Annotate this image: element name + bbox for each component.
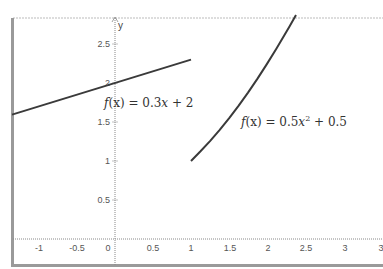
quadratic-function-curve xyxy=(191,15,296,161)
x-tick-label: 1.5 xyxy=(224,243,237,253)
y-axis-label: y xyxy=(118,20,123,31)
y-tick-label: 0.5 xyxy=(97,195,110,205)
left-border xyxy=(11,18,14,266)
x-tick-label: 3 xyxy=(342,243,347,253)
bottom-border xyxy=(11,264,383,267)
x-tick-label: 2 xyxy=(265,243,270,253)
x-tick-label: -1 xyxy=(35,243,43,253)
y-tick-label: 1.5 xyxy=(97,117,110,127)
function-plot: y 0.5 1 1.5 2 2.5 -1 -0.5 0 0.5 1 1.5 2 … xyxy=(0,0,383,269)
x-tick-label: 2.5 xyxy=(300,243,313,253)
linear-function-label: f(x) = 0.3x + 2 xyxy=(103,96,193,110)
x-tick-label: 0 xyxy=(105,243,110,253)
y-tick-label: 1 xyxy=(105,156,110,166)
x-ticks: -1 -0.5 0 0.5 1 1.5 2 2.5 3 3 xyxy=(35,243,383,253)
x-tick-label: 0.5 xyxy=(147,243,160,253)
x-tick-label: 1 xyxy=(188,243,193,253)
x-tick-label: -0.5 xyxy=(69,243,85,253)
x-tick-label: 3 xyxy=(378,243,383,253)
y-tick-label: 2.5 xyxy=(97,39,110,49)
quadratic-function-label: f(x) = 0.5x2 + 0.5 xyxy=(240,114,347,129)
